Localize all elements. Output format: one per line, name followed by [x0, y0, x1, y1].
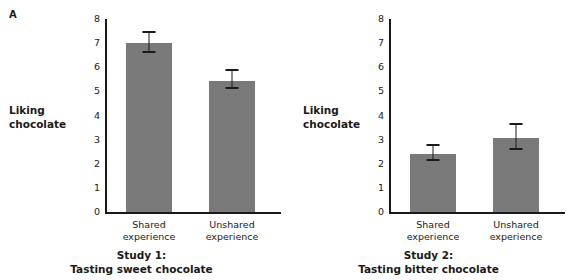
- bar: [209, 81, 255, 212]
- x-axis-line: [389, 212, 565, 214]
- x-tick-labels: SharedexperienceUnsharedexperience: [283, 219, 566, 249]
- y-axis-label-line-2: chocolate: [9, 117, 66, 131]
- bar: [410, 154, 456, 212]
- bar-group: [209, 19, 255, 212]
- y-axis-line: [105, 19, 107, 212]
- y-tick-label: 4: [84, 111, 100, 121]
- x-tick-label: Unsharedexperience: [466, 219, 566, 243]
- study-subtitle-line: Tasting sweet chocolate: [0, 263, 283, 277]
- y-tick-label: 4: [368, 111, 384, 121]
- study-title: Study 1: Tasting sweet chocolate: [0, 249, 283, 276]
- y-axis-line: [389, 19, 391, 212]
- error-bar-cap-upper: [510, 123, 523, 125]
- bar: [126, 43, 172, 212]
- x-axis-line: [105, 212, 281, 214]
- figure-panel-a: A Liking chocolate 876543210 Sharedexper…: [0, 0, 566, 280]
- y-tick-label: 2: [84, 159, 100, 169]
- error-bar-cap-upper: [427, 144, 440, 146]
- y-tick-label: 5: [368, 87, 384, 97]
- y-tick-label: 1: [84, 183, 100, 193]
- x-tick-label-line: experience: [466, 231, 566, 243]
- x-tick-label-line: experience: [182, 231, 282, 243]
- y-axis-label: Liking chocolate: [303, 103, 360, 131]
- error-bar-cap-lower: [427, 159, 440, 161]
- y-tick-label: 6: [368, 63, 384, 73]
- x-tick-label-line: Unshared: [466, 219, 566, 231]
- x-tick-label-line: Unshared: [182, 219, 282, 231]
- y-axis-label-line-2: chocolate: [303, 117, 360, 131]
- y-tick-label: 7: [84, 38, 100, 48]
- error-bar-cap-upper: [226, 69, 239, 71]
- y-tick-label: 3: [84, 135, 100, 145]
- y-tick-label: 8: [84, 14, 100, 24]
- study-title: Study 2: Tasting bitter chocolate: [287, 249, 566, 276]
- y-tick-label: 0: [368, 207, 384, 217]
- y-tick-label: 8: [368, 14, 384, 24]
- chart-study-1: Liking chocolate 876543210 Sharedexperie…: [0, 0, 283, 280]
- y-tick-label: 5: [84, 87, 100, 97]
- error-bar-cap-lower: [510, 148, 523, 150]
- bar-group: [410, 19, 456, 212]
- y-tick-label: 1: [368, 183, 384, 193]
- error-bar-line: [516, 125, 517, 150]
- error-bar-cap-lower: [226, 87, 239, 89]
- plot-area: 876543210: [105, 19, 280, 212]
- bar-group: [126, 19, 172, 212]
- y-tick-label: 7: [368, 38, 384, 48]
- error-bar-cap-lower: [143, 51, 156, 53]
- y-tick-label: 3: [368, 135, 384, 145]
- y-axis-label-line-1: Liking: [303, 103, 360, 117]
- x-tick-labels: SharedexperienceUnsharedexperience: [0, 219, 283, 249]
- study-title-line: Study 2:: [287, 249, 566, 263]
- x-tick-label: Unsharedexperience: [182, 219, 282, 243]
- y-axis-label: Liking chocolate: [9, 103, 66, 131]
- y-tick-label: 2: [368, 159, 384, 169]
- y-tick-label: 0: [84, 207, 100, 217]
- plot-area: 876543210: [389, 19, 564, 212]
- study-subtitle-line: Tasting bitter chocolate: [287, 263, 566, 277]
- y-tick-label: 6: [84, 63, 100, 73]
- chart-study-2: Liking chocolate 876543210 Sharedexperie…: [283, 0, 566, 280]
- error-bar-cap-upper: [143, 31, 156, 33]
- y-axis-label-line-1: Liking: [9, 103, 66, 117]
- bar-group: [493, 19, 539, 212]
- study-title-line: Study 1:: [0, 249, 283, 263]
